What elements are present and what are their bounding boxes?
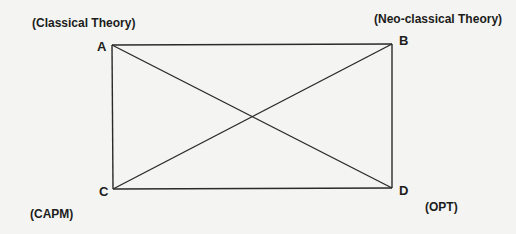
corner-label-a: A bbox=[97, 40, 106, 53]
corner-label-b: B bbox=[399, 34, 408, 47]
theory-label-classical: (Classical Theory) bbox=[32, 17, 135, 29]
theory-diagram: (Classical Theory) (Neo-classical Theory… bbox=[0, 0, 516, 234]
theory-label-neo-classical: (Neo-classical Theory) bbox=[374, 13, 502, 25]
corner-label-d: D bbox=[399, 184, 408, 197]
edge-a-b bbox=[112, 44, 392, 45]
theory-label-opt: (OPT) bbox=[425, 201, 458, 213]
corner-label-c: C bbox=[99, 185, 108, 198]
diagram-lines bbox=[0, 0, 516, 234]
theory-label-capm: (CAPM) bbox=[30, 208, 73, 220]
edge-c-a bbox=[112, 45, 113, 189]
edge-d-c bbox=[113, 188, 392, 189]
